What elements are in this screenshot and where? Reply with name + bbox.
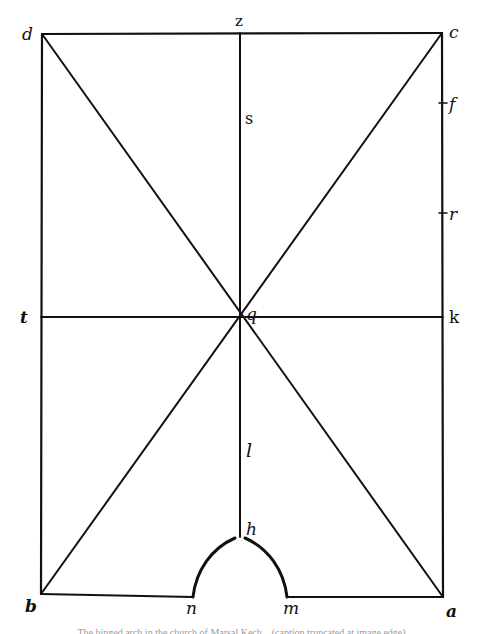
label-s: s — [245, 109, 253, 128]
label-c: c — [449, 22, 459, 42]
left-edge-db — [41, 34, 42, 594]
figure-caption: The hinged arch in the church of Marsal … — [0, 625, 483, 634]
label-d: d — [22, 24, 33, 44]
label-f: f — [447, 94, 458, 114]
label-k: k — [449, 307, 460, 327]
label-m: m — [283, 598, 299, 618]
label-t: t — [20, 307, 28, 327]
label-b: b — [25, 596, 37, 616]
label-a: a — [446, 601, 457, 621]
label-z: z — [235, 12, 243, 30]
geometric-diagram: d z c s f r t q k l h b n m a — [0, 0, 483, 634]
label-n: n — [186, 598, 197, 618]
label-q: q — [246, 304, 257, 324]
diagonal-da — [42, 34, 443, 597]
pointed-arch-nhm — [193, 538, 287, 597]
right-edge-ca — [442, 33, 443, 597]
top-edge-dc — [42, 33, 442, 34]
label-r: r — [449, 204, 458, 224]
bottom-edge-bn — [41, 594, 193, 597]
label-l: l — [246, 439, 252, 461]
label-h: h — [246, 519, 257, 539]
